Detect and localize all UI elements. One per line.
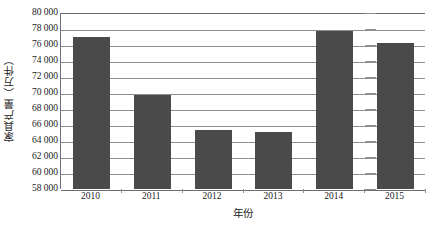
- y-tick-label: 70 000: [32, 88, 58, 98]
- y-tick-mark: [365, 77, 376, 78]
- x-tick-mark: [425, 189, 426, 193]
- y-tick-label: 78 000: [32, 24, 58, 34]
- x-axis-tick-labels: 201020112012201320142015: [60, 192, 425, 208]
- y-tick-label: 68 000: [32, 104, 58, 114]
- y-tick-label: 64 000: [32, 136, 58, 146]
- bar-chart: 家具产量（万件） 80 00078 00076 00074 00072 0007…: [0, 0, 437, 233]
- y-tick-mark: [365, 125, 376, 126]
- bar[interactable]: [377, 43, 414, 189]
- y-tick-mark: [365, 109, 376, 110]
- y-tick-label: 80 000: [32, 8, 58, 18]
- bars-layer: [61, 14, 425, 189]
- y-axis-tick-labels: 80 00078 00076 00074 00072 00070 00068 0…: [18, 7, 60, 189]
- x-tick-label: 2010: [81, 192, 100, 202]
- x-tick-label: 2011: [142, 192, 161, 202]
- x-tick-label: 2015: [385, 192, 404, 202]
- y-tick-label: 58 000: [32, 184, 58, 194]
- y-tick-label: 76 000: [32, 40, 58, 50]
- y-axis-title: 家具产量（万件）: [0, 0, 20, 195]
- y-tick-mark: [365, 29, 376, 30]
- y-tick-label: 72 000: [32, 72, 58, 82]
- x-axis-title: 年份: [60, 209, 425, 220]
- x-tick-label: 2012: [203, 192, 222, 202]
- plot-area: [60, 13, 425, 189]
- y-tick-label: 66 000: [32, 120, 58, 130]
- x-tick-label: 2014: [324, 192, 343, 202]
- bar[interactable]: [195, 130, 232, 189]
- y-tick-mark: [365, 45, 376, 46]
- bar[interactable]: [255, 132, 292, 189]
- y-tick-mark: [365, 189, 376, 190]
- y-tick-mark: [365, 93, 376, 94]
- y-tick-label: 62 000: [32, 152, 58, 162]
- y-tick-label: 60 000: [32, 168, 58, 178]
- bar[interactable]: [73, 37, 110, 189]
- y-tick-mark: [365, 157, 376, 158]
- y-tick-mark: [365, 13, 376, 14]
- bar[interactable]: [316, 31, 353, 189]
- y-tick-label: 74 000: [32, 56, 58, 66]
- y-axis-title-text: 家具产量（万件）: [5, 54, 16, 142]
- y-tick-mark: [365, 173, 376, 174]
- bar[interactable]: [134, 95, 171, 189]
- x-tick-label: 2013: [263, 192, 282, 202]
- y-tick-mark: [365, 141, 376, 142]
- y-tick-mark: [365, 61, 376, 62]
